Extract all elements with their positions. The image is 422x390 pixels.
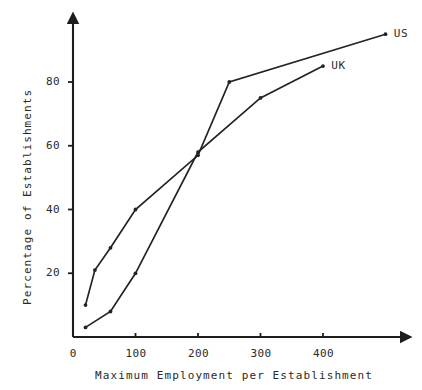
chart-figure: 20406080 0100200300400 USUK Percentage o…	[0, 0, 422, 390]
x-tick-label-300: 300	[250, 348, 271, 359]
x-tick-label-200: 200	[188, 348, 209, 359]
data-point-uk-2	[134, 271, 138, 275]
y-tick-label-80: 80	[46, 76, 60, 87]
y-axis-title: Percentage of Establishments	[22, 89, 33, 305]
x-tick-label-100: 100	[125, 348, 146, 359]
data-point-us-1	[93, 268, 97, 272]
data-point-us-2	[109, 246, 113, 250]
series-line-us	[86, 34, 386, 305]
y-tick-label-60: 60	[46, 140, 60, 151]
data-point-us-6	[384, 32, 388, 36]
y-tick-label-40: 40	[46, 204, 60, 215]
data-point-uk-0	[84, 326, 88, 330]
chart-canvas	[0, 0, 422, 390]
data-point-us-0	[84, 303, 88, 307]
x-tick-label-0: 0	[70, 348, 77, 359]
data-point-us-5	[227, 80, 231, 84]
data-point-us-3	[134, 208, 138, 212]
data-series-layer	[84, 32, 388, 329]
data-point-uk-4	[259, 96, 263, 100]
data-point-uk-3	[196, 150, 200, 154]
y-tick-label-20: 20	[46, 267, 60, 278]
data-point-uk-1	[109, 310, 113, 314]
series-label-uk: UK	[331, 60, 345, 71]
data-point-uk-5	[321, 64, 325, 68]
series-line-uk	[86, 66, 324, 327]
x-tick-label-400: 400	[313, 348, 334, 359]
series-label-us: US	[394, 28, 408, 39]
x-axis-title: Maximum Employment per Establishment	[95, 370, 373, 381]
